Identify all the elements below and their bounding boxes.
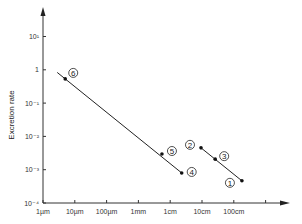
point-marker xyxy=(180,171,184,175)
point-label: 3 xyxy=(222,152,227,161)
data-point-4: 4 xyxy=(180,167,196,176)
y-tick-label: 10⁻³ xyxy=(25,166,40,173)
point-label: 6 xyxy=(71,69,76,78)
point-label: 2 xyxy=(188,141,193,150)
x-tick-label: 10cm xyxy=(193,208,210,215)
point-label: 4 xyxy=(189,168,194,177)
y-tick-label: 10⁻² xyxy=(25,133,40,140)
y-axis: 10⁻⁴10⁻³10⁻²10⁻¹110¹ xyxy=(24,7,46,207)
point-label: 1 xyxy=(228,179,233,188)
point-marker xyxy=(199,146,203,150)
data-point-6: 6 xyxy=(63,68,77,80)
point-marker xyxy=(240,179,244,183)
point-marker xyxy=(160,152,164,156)
point-label: 5 xyxy=(170,147,175,156)
data-point-3: 3 xyxy=(213,152,228,161)
y-axis-title: Excretion rate xyxy=(7,90,16,140)
data-points: 123456 xyxy=(63,68,243,187)
y-tick-label: 1 xyxy=(35,66,39,73)
x-tick-label: 100cm xyxy=(223,208,244,215)
x-tick-label: 1µm xyxy=(36,208,50,216)
y-tick-label: 10¹ xyxy=(29,33,40,40)
x-tick-label: 1mm xyxy=(131,208,147,215)
x-axis-arrow-icon xyxy=(280,201,290,206)
x-tick-label: 10µm xyxy=(66,208,84,216)
y-tick-label: 10⁻¹ xyxy=(25,100,40,107)
x-axis: 1µm10µm100µm1mm1cm10cm100cm xyxy=(36,200,290,216)
fit-lines xyxy=(57,72,242,180)
excretion-rate-chart: 10⁻⁴10⁻³10⁻²10⁻¹110¹ 1µm10µm100µm1mm1cm1… xyxy=(0,0,302,224)
y-axis-arrow-icon xyxy=(41,7,46,16)
data-point-1: 1 xyxy=(225,178,243,187)
y-tick-label: 10⁻⁴ xyxy=(24,200,39,207)
data-point-2: 2 xyxy=(185,140,202,149)
point-marker xyxy=(63,77,67,81)
x-tick-label: 100µm xyxy=(96,208,118,216)
fit-small-line xyxy=(57,72,181,172)
x-tick-label: 1cm xyxy=(164,208,177,215)
data-point-5: 5 xyxy=(160,147,176,156)
point-marker xyxy=(213,157,217,161)
